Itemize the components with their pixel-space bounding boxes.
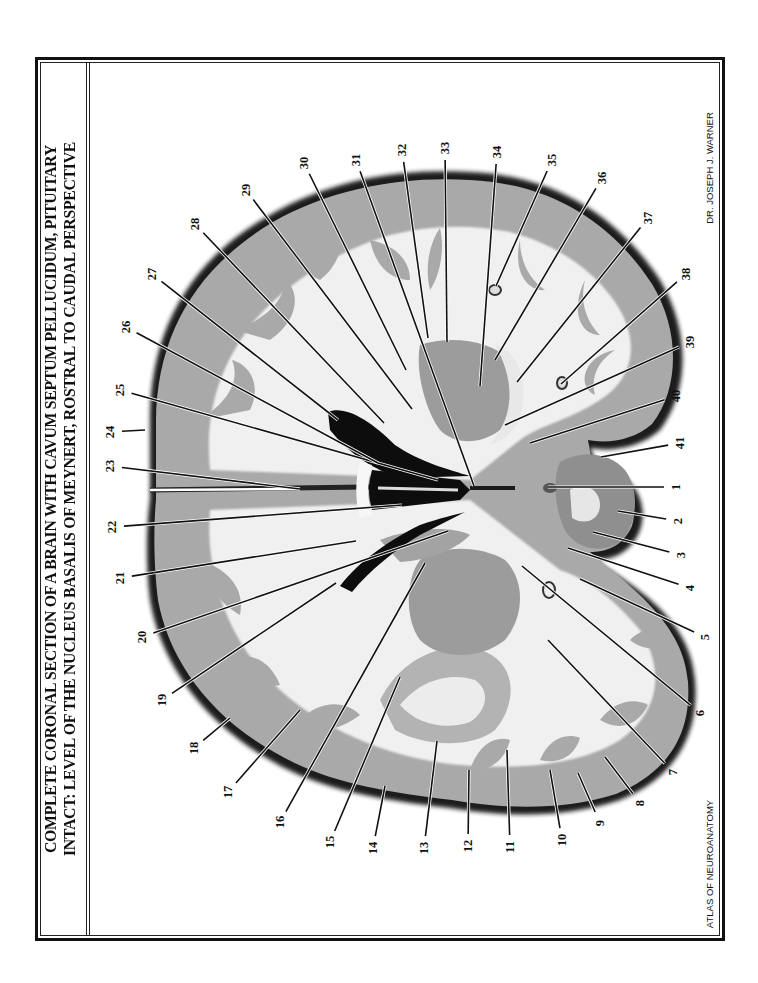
label-number-18: 18 <box>187 742 201 755</box>
label-number-2: 2 <box>671 518 685 524</box>
label-number-41: 41 <box>673 437 687 450</box>
label-number-27: 27 <box>145 268 159 281</box>
label-number-16: 16 <box>273 816 287 829</box>
label-number-3: 3 <box>674 552 688 558</box>
label-number-5: 5 <box>698 634 712 640</box>
label-number-26: 26 <box>119 321 133 334</box>
label-number-23: 23 <box>103 460 117 473</box>
label-number-37: 37 <box>641 212 655 225</box>
label-number-24: 24 <box>103 425 117 438</box>
label-number-30: 30 <box>297 157 311 170</box>
label-number-6: 6 <box>693 710 707 716</box>
vessel-35 <box>489 285 501 295</box>
label-number-34: 34 <box>490 145 504 158</box>
label-number-20: 20 <box>135 631 149 644</box>
label-number-8: 8 <box>633 800 647 806</box>
label-number-28: 28 <box>188 218 202 231</box>
label-number-36: 36 <box>595 172 609 185</box>
brain-section-figure: 1234567891011121314151617181920212223242… <box>0 0 758 983</box>
label-number-21: 21 <box>113 572 127 585</box>
leader-line-12 <box>468 770 469 834</box>
label-number-40: 40 <box>669 390 683 403</box>
label-number-29: 29 <box>239 184 253 197</box>
label-number-35: 35 <box>545 154 559 167</box>
label-number-22: 22 <box>105 521 119 534</box>
label-number-17: 17 <box>221 786 235 799</box>
label-number-33: 33 <box>438 142 452 155</box>
label-number-25: 25 <box>113 384 127 397</box>
label-number-13: 13 <box>417 842 431 855</box>
label-number-32: 32 <box>395 144 409 157</box>
leader-line-18 <box>203 718 230 740</box>
label-number-15: 15 <box>323 836 337 849</box>
label-number-4: 4 <box>683 584 697 591</box>
label-number-38: 38 <box>679 268 693 281</box>
label-number-19: 19 <box>155 694 169 707</box>
label-number-10: 10 <box>555 834 569 847</box>
label-number-7: 7 <box>666 769 680 775</box>
label-number-1: 1 <box>669 484 683 490</box>
septum-pellucidum <box>378 488 458 490</box>
label-number-12: 12 <box>461 840 475 853</box>
interhemispheric-fissure-gap <box>150 489 300 490</box>
label-number-39: 39 <box>683 336 697 349</box>
label-number-11: 11 <box>503 841 517 853</box>
label-number-31: 31 <box>349 154 363 167</box>
label-number-14: 14 <box>366 841 380 854</box>
label-number-9: 9 <box>593 820 607 826</box>
